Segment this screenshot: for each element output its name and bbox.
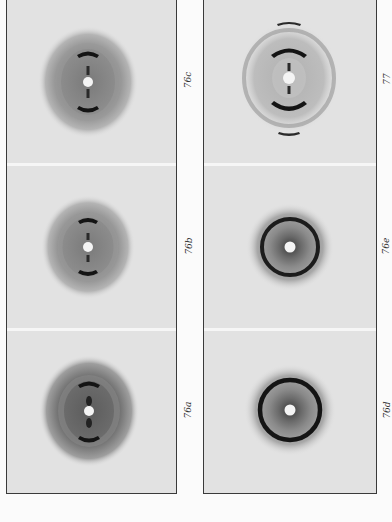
right-figure-column: [203, 0, 377, 494]
panel-label-77: 77: [382, 73, 392, 84]
panel-label-76d: 76d: [382, 401, 392, 418]
diffraction-panel-76e: [204, 166, 376, 328]
diffraction-panel-76d: [204, 331, 376, 493]
diffraction-pattern-77: [204, 0, 376, 163]
diffraction-pattern-76e: [204, 166, 376, 328]
diffraction-pattern-76b: [7, 166, 176, 328]
panel-label-76e: 76e: [381, 238, 391, 255]
diffraction-panel-76c: [7, 0, 176, 163]
diffraction-panel-76a: [7, 331, 176, 493]
diffraction-pattern-76c: [7, 0, 176, 163]
panel-label-76a: 76a: [183, 402, 193, 419]
diffraction-panel-77: [204, 0, 376, 163]
diffraction-pattern-76d: [204, 331, 376, 493]
diffraction-pattern-76a: [7, 331, 176, 493]
diffraction-panel-76b: [7, 166, 176, 328]
panel-label-76c: 76c: [183, 72, 193, 89]
left-figure-column: [6, 0, 177, 494]
panel-label-76b: 76b: [184, 237, 194, 254]
